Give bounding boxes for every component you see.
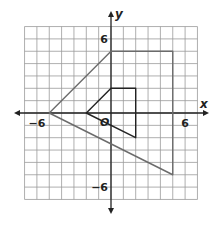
y-axis-label: y: [115, 7, 124, 21]
x-tick-label: 6: [181, 117, 189, 130]
axes: [14, 11, 209, 214]
coordinate-plane: x y O −666−6: [0, 0, 219, 225]
x-tick-label: −6: [28, 117, 45, 130]
origin-label: O: [100, 116, 109, 129]
y-axis-up-arrow-icon: [108, 11, 114, 17]
x-axis-left-arrow-icon: [14, 110, 20, 116]
x-axis-label: x: [199, 97, 209, 111]
y-tick-label: −6: [91, 181, 108, 194]
y-axis-down-arrow-icon: [108, 208, 114, 214]
y-tick-label: 6: [100, 33, 108, 46]
